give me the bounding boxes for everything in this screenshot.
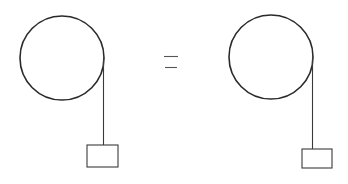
pulley-diagram [0,0,348,184]
right-pulley-wheel [229,15,313,99]
right-pulley-system [229,15,332,168]
left-pulley-system [20,16,118,167]
left-hanging-mass [87,145,118,167]
right-hanging-mass [302,149,332,168]
left-pulley-wheel [20,16,104,100]
equals-sign [164,57,178,68]
diagram-canvas [0,0,348,184]
